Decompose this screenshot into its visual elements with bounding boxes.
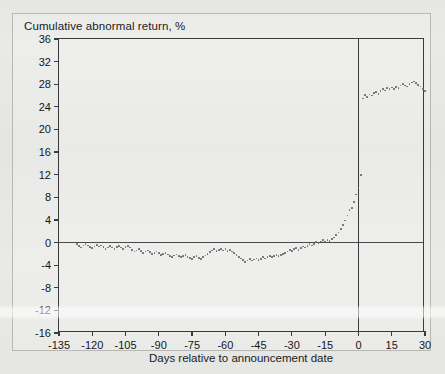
data-point — [342, 224, 344, 226]
data-point — [209, 251, 211, 253]
data-point — [400, 85, 402, 87]
x-tick-label: 30 — [419, 339, 431, 351]
y-tick-mark — [54, 174, 59, 175]
data-point — [284, 252, 286, 254]
y-tick-mark — [54, 242, 59, 243]
data-point — [409, 83, 411, 85]
x-tick-label: 15 — [386, 339, 398, 351]
data-point — [362, 98, 364, 100]
data-point — [298, 249, 300, 251]
data-point — [333, 237, 335, 239]
data-point — [151, 253, 153, 255]
y-tick-label: 32 — [39, 56, 51, 68]
x-tick-mark — [158, 331, 159, 336]
x-tick-mark — [358, 331, 359, 336]
data-point — [171, 256, 173, 258]
data-point — [307, 245, 309, 247]
data-point — [338, 232, 340, 234]
data-point — [193, 256, 195, 258]
data-point — [304, 247, 306, 249]
y-tick-label: 24 — [39, 101, 51, 113]
data-point — [107, 247, 109, 249]
data-point — [244, 261, 246, 263]
data-point — [264, 258, 266, 260]
data-point — [213, 248, 215, 250]
data-point — [313, 243, 315, 245]
y-tick-mark — [54, 129, 59, 130]
data-point — [162, 253, 164, 255]
x-tick-mark — [391, 331, 392, 336]
y-tick-mark — [54, 287, 59, 288]
data-point — [260, 258, 262, 260]
y-tick-mark — [54, 310, 59, 311]
data-point — [351, 207, 353, 209]
data-point — [295, 247, 297, 249]
x-tick-label: -15 — [317, 339, 333, 351]
y-tick-label: 16 — [39, 146, 51, 158]
data-point — [386, 87, 388, 89]
data-point — [122, 248, 124, 250]
x-tick-mark — [424, 331, 425, 336]
y-tick-label: 8 — [45, 191, 51, 203]
data-point — [384, 90, 386, 92]
y-tick-mark — [54, 106, 59, 107]
y-tick-label: -8 — [41, 282, 51, 294]
y-tick-label: -4 — [41, 259, 51, 271]
x-tick-label: -120 — [81, 339, 103, 351]
data-point — [165, 252, 167, 254]
data-point — [256, 258, 258, 260]
x-tick-mark — [58, 331, 59, 336]
data-point — [335, 234, 337, 236]
data-point — [100, 245, 102, 247]
y-tick-label: 0 — [45, 237, 51, 249]
data-point — [94, 246, 96, 248]
data-point — [398, 87, 400, 89]
plot-area: -16-12-8-404812162024283236 -135-120-105… — [58, 38, 424, 332]
data-point — [105, 248, 107, 250]
data-point — [233, 252, 235, 254]
x-tick-mark — [258, 331, 259, 336]
y-tick-mark — [54, 197, 59, 198]
x-tick-mark — [125, 331, 126, 336]
data-point — [315, 241, 317, 243]
data-point — [344, 220, 346, 222]
y-tick-mark — [54, 265, 59, 266]
data-point — [207, 253, 209, 255]
data-point — [111, 247, 113, 249]
data-point — [355, 194, 357, 196]
y-tick-label: 4 — [45, 214, 51, 226]
data-point — [417, 84, 419, 86]
data-point — [202, 256, 204, 258]
x-tick-label: -105 — [115, 339, 137, 351]
y-tick-label: 20 — [39, 123, 51, 135]
data-point — [145, 251, 147, 253]
data-point — [366, 96, 368, 98]
data-point — [378, 93, 380, 95]
data-point — [142, 252, 144, 254]
y-tick-mark — [54, 84, 59, 85]
x-tick-label: -45 — [251, 339, 267, 351]
data-point — [236, 254, 238, 256]
data-point — [371, 95, 373, 97]
data-point — [311, 245, 313, 247]
data-point — [200, 258, 202, 260]
chart-title: Cumulative abnormal return, % — [24, 20, 185, 32]
data-point — [103, 246, 105, 248]
y-tick-mark — [54, 151, 59, 152]
data-point — [393, 88, 395, 90]
data-point — [182, 255, 184, 257]
data-point — [331, 238, 333, 240]
x-tick-mark — [191, 331, 192, 336]
y-tick-mark — [54, 61, 59, 62]
data-point — [420, 86, 422, 88]
data-point — [340, 228, 342, 230]
x-tick-mark — [325, 331, 326, 336]
data-point — [291, 250, 293, 252]
data-point — [83, 245, 85, 247]
x-tick-label: -60 — [217, 339, 233, 351]
x-tick-label: -135 — [48, 339, 70, 351]
data-point — [406, 86, 408, 88]
data-point — [114, 248, 116, 250]
data-point — [154, 252, 156, 254]
data-point — [349, 209, 351, 211]
